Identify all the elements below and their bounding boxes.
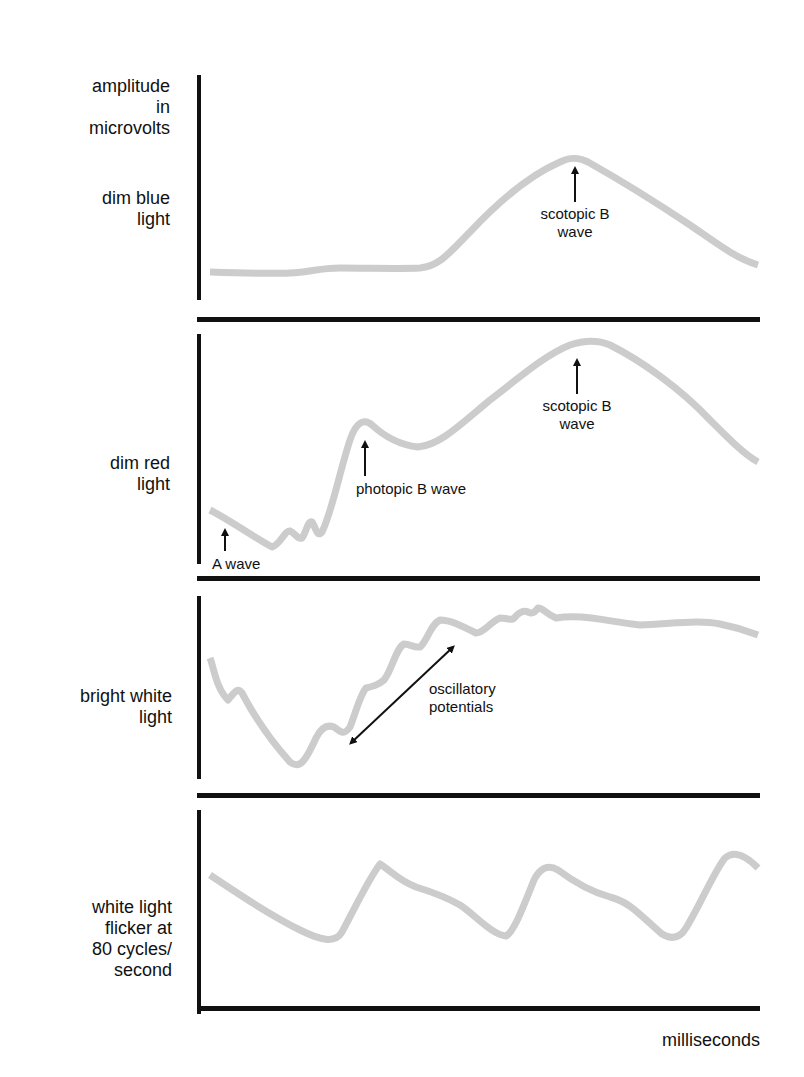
- panel3-4-divider: [197, 793, 760, 798]
- curve-dim-blue-light: [210, 158, 758, 273]
- panel3-y-axis: [197, 596, 201, 779]
- panel2-y-axis: [197, 334, 201, 564]
- panel2-3-divider: [197, 576, 760, 581]
- annotation-photopic-b-wave: photopic B wave: [356, 480, 536, 498]
- panel1-y-axis: [197, 75, 201, 300]
- panel1-2-divider: [197, 317, 760, 322]
- x-axis: [197, 1006, 760, 1011]
- annotation-scotopic-b-wave-2: scotopic B wave: [517, 397, 637, 433]
- annotation-scotopic-b-wave-1: scotopic B wave: [515, 205, 635, 241]
- curve-dim-red-light: [210, 341, 758, 547]
- annotation-a-wave: A wave: [212, 555, 292, 573]
- erg-chart: [0, 0, 804, 1077]
- annotation-oscillatory-potentials: oscillatory potentials: [429, 680, 549, 716]
- panel4-y-axis: [197, 810, 201, 1014]
- curve-flicker: [210, 854, 758, 939]
